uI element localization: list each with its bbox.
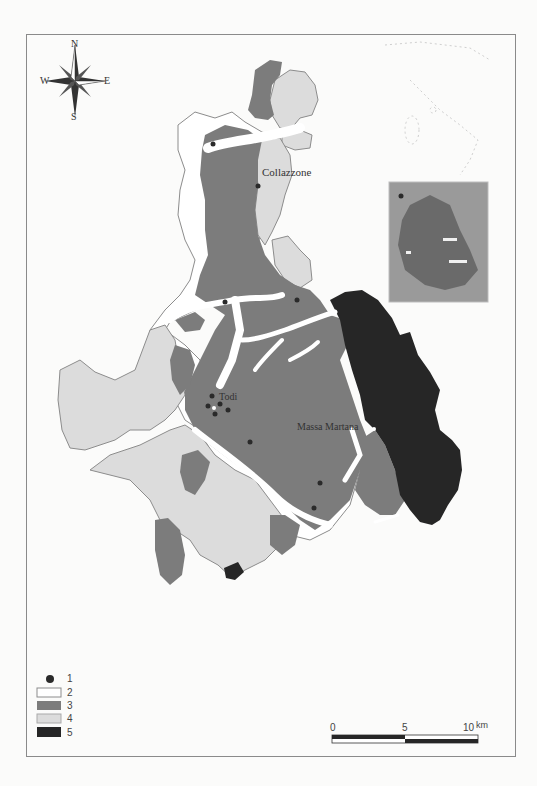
compass-east-label: E xyxy=(104,75,110,86)
place-label-massa-martana: Massa Martana xyxy=(297,421,358,432)
compass-west-label: W xyxy=(40,75,49,86)
place-label-todi: Todi xyxy=(219,391,237,402)
legend-label-4: 4 xyxy=(67,713,73,724)
scale-unit: km xyxy=(476,720,488,730)
scale-tick-0: 0 xyxy=(330,722,336,733)
map-canvas xyxy=(0,0,537,786)
massa-martana-marker xyxy=(372,427,376,431)
compass-north-label: N xyxy=(71,38,78,49)
todi-marker xyxy=(212,406,216,410)
legend-label-1: 1 xyxy=(67,673,73,684)
legend-symbols xyxy=(37,675,61,737)
legend-label-2: 2 xyxy=(67,687,73,698)
scale-tick-10: 10 xyxy=(463,722,474,733)
legend-label-3: 3 xyxy=(67,700,73,711)
compass-south-label: S xyxy=(71,111,77,122)
place-label-collazzone: Collazzone xyxy=(262,166,311,178)
legend-label-5: 5 xyxy=(67,727,73,738)
inset-map xyxy=(385,42,490,302)
compass-rose-icon xyxy=(45,45,105,117)
scale-tick-5: 5 xyxy=(402,722,408,733)
scale-bar xyxy=(332,735,478,743)
